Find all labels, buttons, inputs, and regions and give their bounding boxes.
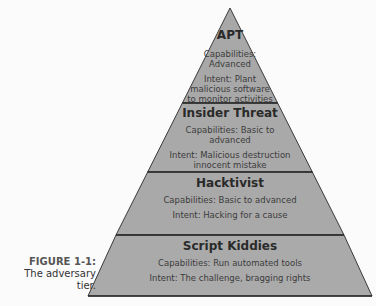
tier-capabilities: advanced [160,135,300,145]
tier-title: Insider Threat [160,106,300,121]
figure-caption: FIGURE 1-1: The adversary tier. [0,256,96,292]
tier-capabilities: Capabilities: Run automated tools [120,258,340,268]
tier-apt: APT Capabilities: Advanced Intent: Plant… [180,28,280,104]
tier-intent: to monitor activities [180,94,280,104]
tier-intent: Intent: Plant [180,74,280,84]
tier-title: Script Kiddies [120,239,340,254]
figure-caption-text: tier. [0,280,96,292]
tier-intent: Intent: The challenge, bragging rights [120,273,340,283]
tier-script-kiddies: Script Kiddies Capabilities: Run automat… [120,239,340,283]
tier-intent: innocent mistake [160,160,300,170]
figure-label: FIGURE 1-1: [0,256,96,268]
tier-insider-threat: Insider Threat Capabilities: Basic to ad… [160,106,300,170]
figure-caption-text: The adversary [0,268,96,280]
tier-capabilities: Capabilities: Basic to [160,125,300,135]
tier-capabilities: Capabilities: Basic to advanced [140,195,320,205]
tier-title: Hacktivist [140,176,320,191]
tier-intent: Intent: Hacking for a cause [140,210,320,220]
tier-intent: Intent: Malicious destruction [160,150,300,160]
tier-capabilities: Advanced [180,59,280,69]
tier-title: APT [180,28,280,43]
tier-hacktivist: Hacktivist Capabilities: Basic to advanc… [140,176,320,220]
tier-capabilities: Capabilities: [180,49,280,59]
tier-intent: malicious software [180,84,280,94]
